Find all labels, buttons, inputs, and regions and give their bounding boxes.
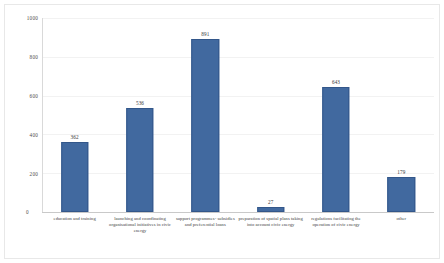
bar-value-label: 179 [397, 169, 405, 175]
bar-value-label: 643 [332, 79, 340, 85]
bar[interactable] [192, 39, 219, 212]
bar-slot: 891 [173, 18, 238, 212]
bar-slot: 179 [369, 18, 434, 212]
bar-slot: 362 [42, 18, 107, 212]
x-axis-line [42, 212, 434, 213]
y-tick-label-zero: 0 [26, 209, 29, 215]
bar[interactable] [126, 108, 153, 212]
bar-value-label: 27 [268, 199, 273, 205]
y-axis-tick-labels: 1000 800 600 400 200 [0, 18, 38, 213]
x-axis-category-label: regulations facilitating the operation o… [303, 216, 368, 228]
y-tick-label: 800 [30, 54, 38, 60]
bar-slot: 27 [238, 18, 303, 212]
bars-container: 36253689127643179 [42, 18, 434, 212]
bar-chart: 1000 800 600 400 200 0 36253689127643179… [0, 0, 444, 263]
x-axis-category-label: launching and coordinating organisationa… [107, 216, 172, 235]
bar-value-label: 536 [136, 100, 144, 106]
y-tick-label: 600 [30, 93, 38, 99]
bar[interactable] [257, 207, 284, 212]
bar[interactable] [61, 142, 88, 212]
bar[interactable] [322, 87, 349, 212]
bar[interactable] [388, 177, 415, 212]
bar-value-label: 362 [71, 134, 79, 140]
x-axis-category-labels: education and traininglaunching and coor… [42, 216, 434, 260]
x-axis-category-label: preparation of spatial plans taking into… [238, 216, 303, 228]
y-tick-label: 1000 [27, 15, 38, 21]
x-axis-category-label: other [369, 216, 434, 222]
x-axis-category-label: support programmes- subsidies and prefer… [173, 216, 238, 228]
y-tick-label: 200 [30, 171, 38, 177]
y-tick-label: 400 [30, 132, 38, 138]
x-axis-category-label: education and training [42, 216, 107, 222]
bar-value-label: 891 [201, 31, 209, 37]
bar-slot: 643 [303, 18, 368, 212]
bar-slot: 536 [107, 18, 172, 212]
